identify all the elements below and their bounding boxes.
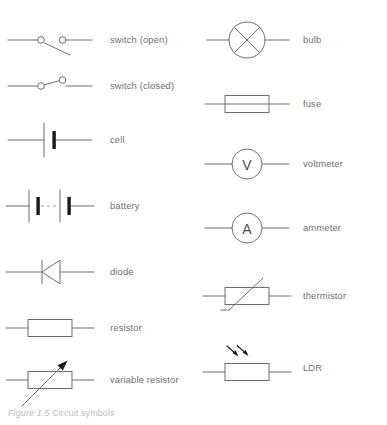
bulb-symbol xyxy=(193,12,301,68)
symbol-label: fuse xyxy=(301,99,321,108)
figure-caption-number: Figure 1.5 xyxy=(8,408,50,418)
variable-resistor-symbol xyxy=(0,352,108,408)
symbol-label: resistor xyxy=(108,323,142,332)
voltmeter-glyph: V xyxy=(242,157,252,173)
symbol-row-switch-closed: switch (closed) xyxy=(0,58,193,114)
symbol-row-thermistor: thermistor xyxy=(193,268,386,324)
ammeter-glyph: A xyxy=(242,221,252,237)
symbol-row-fuse: fuse xyxy=(193,76,386,132)
circuit-symbols-figure: switch (open) switch (closed) xyxy=(0,0,387,425)
fuse-symbol xyxy=(193,76,301,132)
symbol-label: LDR xyxy=(301,363,322,372)
symbol-label: switch (open) xyxy=(108,35,168,44)
symbol-row-cell: cell xyxy=(0,112,193,168)
figure-caption: Figure 1.5 Circuit symbols xyxy=(8,408,115,418)
figure-caption-text: Circuit symbols xyxy=(52,408,115,418)
left-column: switch (open) switch (closed) xyxy=(0,0,193,410)
right-column: bulb fuse V xyxy=(193,0,386,410)
symbol-row-ldr: LDR xyxy=(193,340,386,396)
thermistor-symbol xyxy=(193,268,301,324)
cell-symbol xyxy=(0,112,108,168)
ammeter-symbol: A xyxy=(193,200,301,256)
switch-closed-symbol xyxy=(0,58,108,114)
symbol-label: bulb xyxy=(301,35,321,44)
symbol-label: variable resistor xyxy=(108,375,179,384)
voltmeter-symbol: V xyxy=(193,136,301,192)
symbol-row-resistor: resistor xyxy=(0,300,193,356)
diode-symbol xyxy=(0,244,108,300)
symbol-label: thermistor xyxy=(301,291,346,300)
symbol-row-ammeter: A ammeter xyxy=(193,200,386,256)
light-arrows-icon xyxy=(227,346,249,357)
symbol-row-diode: diode xyxy=(0,244,193,300)
symbol-row-battery: battery xyxy=(0,178,193,234)
battery-symbol xyxy=(0,178,108,234)
resistor-symbol xyxy=(0,300,108,356)
ldr-symbol xyxy=(193,340,301,396)
symbol-row-variable-resistor: variable resistor xyxy=(0,352,193,408)
symbol-label: battery xyxy=(108,201,140,210)
symbol-label: cell xyxy=(108,135,125,144)
symbol-label: voltmeter xyxy=(301,159,343,168)
symbol-label: ammeter xyxy=(301,223,341,232)
symbol-label: switch (closed) xyxy=(108,81,174,90)
symbol-row-bulb: bulb xyxy=(193,12,386,68)
symbol-row-voltmeter: V voltmeter xyxy=(193,136,386,192)
symbol-label: diode xyxy=(108,267,134,276)
